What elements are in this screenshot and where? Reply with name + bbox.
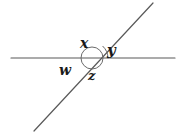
- angle-label-z: z: [88, 69, 95, 82]
- geometry-figure: x y w z: [0, 0, 186, 135]
- angle-label-x: x: [80, 36, 88, 50]
- angle-label-y: y: [107, 43, 116, 58]
- angle-label-w: w: [59, 63, 71, 77]
- transversal-line: [34, 3, 153, 131]
